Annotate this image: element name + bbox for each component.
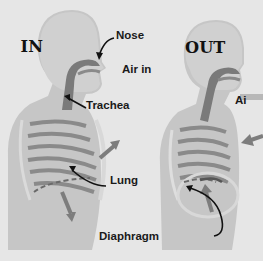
trachea-label: Trachea bbox=[86, 99, 129, 111]
out-panel-title: OUT bbox=[185, 37, 225, 57]
in-panel-title: IN bbox=[21, 36, 43, 56]
breathing-diagram: IN OUT Nose Air in Trachea Lung Diaphrag… bbox=[0, 0, 263, 261]
air-out-label: Ai bbox=[235, 94, 247, 106]
diaphragm-label: Diaphragm bbox=[99, 230, 159, 242]
nose-label: Nose bbox=[116, 29, 144, 41]
air-in-label: Air in bbox=[122, 63, 151, 75]
lung-label: Lung bbox=[110, 174, 138, 186]
